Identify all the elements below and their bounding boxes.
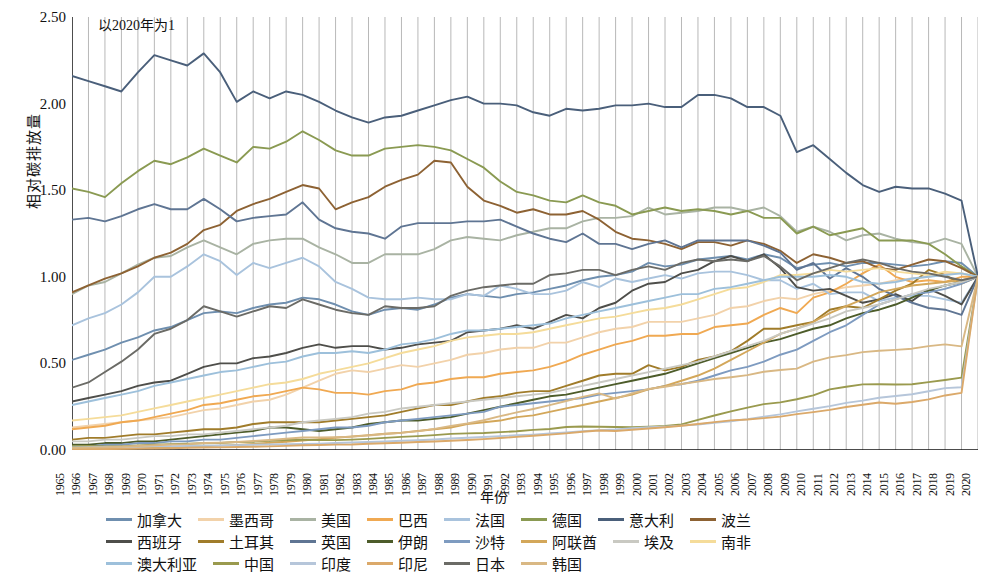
series-line-沙特: [72, 277, 978, 447]
legend-item-德国[interactable]: 德国: [521, 509, 582, 530]
legend-item-巴西[interactable]: 巴西: [367, 509, 428, 530]
legend-color-swatch: [106, 540, 132, 543]
legend-label: 日本: [475, 553, 505, 574]
legend-color-swatch: [106, 562, 132, 565]
legend-color-swatch: [444, 518, 470, 521]
chart-legend: 加拿大墨西哥美国巴西法国德国意大利波兰西班牙土耳其英国伊朗沙特阿联酋埃及南非澳大…: [106, 508, 906, 574]
legend-item-中国[interactable]: 中国: [213, 553, 274, 574]
legend-label: 南非: [721, 531, 751, 552]
legend-label: 印尼: [398, 553, 428, 574]
legend-label: 阿联酋: [552, 531, 597, 552]
legend-item-英国[interactable]: 英国: [290, 531, 351, 552]
legend-color-swatch: [598, 518, 624, 521]
legend-color-swatch: [690, 518, 716, 521]
legend-item-日本[interactable]: 日本: [444, 553, 505, 574]
legend-label: 中国: [244, 553, 274, 574]
y-axis-tick-label: 2.50: [14, 9, 66, 26]
legend-color-swatch: [198, 518, 224, 521]
legend-label: 埃及: [644, 531, 674, 552]
legend-color-swatch: [367, 540, 393, 543]
legend-item-土耳其[interactable]: 土耳其: [198, 531, 274, 552]
legend-label: 土耳其: [229, 531, 274, 552]
legend-label: 韩国: [552, 553, 582, 574]
legend-label: 伊朗: [398, 531, 428, 552]
legend-label: 法国: [475, 509, 505, 530]
series-line-波兰: [72, 161, 978, 293]
legend-label: 加拿大: [137, 509, 182, 530]
legend-label: 波兰: [721, 509, 751, 530]
legend-label: 西班牙: [137, 531, 182, 552]
series-line-意大利: [72, 53, 978, 276]
y-axis-tick-label: 1.00: [14, 268, 66, 285]
legend-label: 美国: [321, 509, 351, 530]
legend-color-swatch: [690, 540, 716, 543]
x-axis-title: 年份: [0, 486, 988, 506]
legend-row: 加拿大墨西哥美国巴西法国德国意大利波兰: [106, 508, 906, 530]
legend-color-swatch: [213, 562, 239, 565]
series-line-阿联酋: [72, 277, 978, 450]
series-line-印度: [72, 277, 978, 448]
legend-item-波兰[interactable]: 波兰: [690, 509, 751, 530]
legend-row: 澳大利亚中国印度印尼日本韩国: [106, 552, 906, 574]
legend-color-swatch: [367, 518, 393, 521]
legend-item-法国[interactable]: 法国: [444, 509, 505, 530]
legend-color-swatch: [444, 540, 470, 543]
legend-label: 沙特: [475, 531, 505, 552]
legend-item-美国[interactable]: 美国: [290, 509, 351, 530]
legend-label: 德国: [552, 509, 582, 530]
legend-item-阿联酋[interactable]: 阿联酋: [521, 531, 597, 552]
series-line-伊朗: [72, 277, 978, 445]
legend-color-swatch: [290, 562, 316, 565]
y-axis-tick-label: 0.50: [14, 355, 66, 372]
y-axis-tick-label: 0.00: [14, 442, 66, 459]
legend-label: 澳大利亚: [137, 553, 197, 574]
legend-color-swatch: [613, 540, 639, 543]
plot-annotation: 以2020年为1: [98, 14, 175, 34]
series-line-中国: [72, 277, 978, 447]
legend-item-沙特[interactable]: 沙特: [444, 531, 505, 552]
series-line-韩国: [72, 277, 978, 448]
legend-color-swatch: [367, 562, 393, 565]
legend-label: 印度: [321, 553, 351, 574]
legend-color-swatch: [444, 562, 470, 565]
legend-item-韩国[interactable]: 韩国: [521, 553, 582, 574]
legend-label: 英国: [321, 531, 351, 552]
legend-label: 墨西哥: [229, 509, 274, 530]
legend-item-意大利[interactable]: 意大利: [598, 509, 674, 530]
legend-color-swatch: [521, 562, 547, 565]
legend-color-swatch: [106, 518, 132, 521]
legend-item-澳大利亚[interactable]: 澳大利亚: [106, 553, 197, 574]
legend-item-印度[interactable]: 印度: [290, 553, 351, 574]
legend-color-swatch: [290, 540, 316, 543]
plot-area: 以2020年为1: [72, 17, 978, 450]
legend-label: 意大利: [629, 509, 674, 530]
legend-color-swatch: [198, 540, 224, 543]
legend-color-swatch: [521, 518, 547, 521]
legend-label: 巴西: [398, 509, 428, 530]
legend-item-埃及[interactable]: 埃及: [613, 531, 674, 552]
chart-container: 相对碳排放量 0.000.501.001.502.002.50 以2020年为1…: [0, 0, 988, 584]
legend-item-加拿大[interactable]: 加拿大: [106, 509, 182, 530]
legend-item-印尼[interactable]: 印尼: [367, 553, 428, 574]
series-line-美国: [72, 208, 978, 295]
legend-color-swatch: [290, 518, 316, 521]
legend-item-墨西哥[interactable]: 墨西哥: [198, 509, 274, 530]
legend-color-swatch: [521, 540, 547, 543]
legend-item-西班牙[interactable]: 西班牙: [106, 531, 182, 552]
legend-row: 西班牙土耳其英国伊朗沙特阿联酋埃及南非: [106, 530, 906, 552]
series-group: [72, 53, 978, 449]
y-axis-tick-label: 1.50: [14, 182, 66, 199]
line-chart-svg: [72, 17, 978, 450]
legend-item-伊朗[interactable]: 伊朗: [367, 531, 428, 552]
series-line-印尼: [72, 277, 978, 449]
series-line-德国: [72, 131, 978, 276]
y-axis-tick-label: 2.00: [14, 95, 66, 112]
legend-item-南非[interactable]: 南非: [690, 531, 751, 552]
